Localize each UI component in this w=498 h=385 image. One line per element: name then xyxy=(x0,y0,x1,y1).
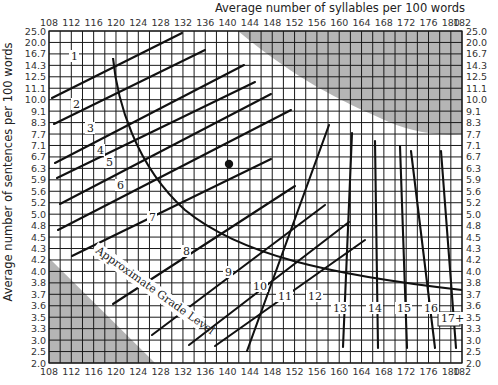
y-tick-left: 7.7 xyxy=(31,129,46,140)
grade-label-9: 9 xyxy=(225,266,232,279)
y-tick-left: 6.3 xyxy=(31,163,46,174)
y-tick-left: 4.5 xyxy=(31,232,46,243)
y-tick-left: 7.1 xyxy=(31,140,46,151)
x-ticks-top: 1081121161201241281321361401441481521561… xyxy=(40,17,471,28)
x-tick-top: 168 xyxy=(375,17,393,28)
x-tick-top: 156 xyxy=(308,17,326,28)
plot-area: Approximate Grade Level 1234567891011121… xyxy=(49,31,464,363)
y-tick-left: 4.2 xyxy=(31,254,46,265)
x-tick-bottom: 148 xyxy=(263,366,281,377)
x-tick-top: 172 xyxy=(397,17,415,28)
y-tick-right: 7.7 xyxy=(466,129,481,140)
y-tick-right: 4.5 xyxy=(466,232,481,243)
y-tick-left: 9.1 xyxy=(31,106,46,117)
y-tick-left: 20.0 xyxy=(25,37,46,48)
x-tick-bottom: 156 xyxy=(308,366,326,377)
y-ticks-left: 25.020.016.714.312.511.110.09.18.37.77.1… xyxy=(25,26,46,369)
y-tick-left: 10.0 xyxy=(25,94,46,105)
y-tick-left: 16.7 xyxy=(25,48,46,59)
y-tick-left: 3.3 xyxy=(31,323,46,334)
x-tick-top: 152 xyxy=(285,17,303,28)
y-tick-right: 7.1 xyxy=(466,140,481,151)
x-tick-top: 128 xyxy=(152,17,170,28)
x-tick-top: 116 xyxy=(85,17,103,28)
grade-label-13: 13 xyxy=(333,302,347,315)
y-tick-left: 3.6 xyxy=(31,300,46,311)
grade-label-17+: 17+ xyxy=(441,312,464,325)
grade-label-1: 1 xyxy=(71,50,78,63)
y-axis-title: Average number of sentences per 100 word… xyxy=(1,42,15,301)
grade-label-11: 11 xyxy=(278,290,292,303)
x-tick-bottom: 172 xyxy=(397,366,415,377)
y-tick-left: 4.0 xyxy=(31,266,46,277)
y-tick-right: 4.2 xyxy=(466,254,481,265)
y-tick-left: 2.0 xyxy=(31,358,46,369)
y-tick-right: 8.3 xyxy=(466,117,481,128)
y-tick-right: 20.0 xyxy=(466,37,487,48)
x-tick-bottom: 152 xyxy=(285,366,303,377)
x-tick-bottom: 136 xyxy=(196,366,214,377)
grade-label-3: 3 xyxy=(87,122,94,135)
y-tick-right: 5.0 xyxy=(466,209,481,220)
x-tick-top: 148 xyxy=(263,17,281,28)
x-tick-top: 136 xyxy=(196,17,214,28)
y-tick-left: 5.9 xyxy=(31,174,46,185)
x-tick-bottom: 144 xyxy=(241,366,259,377)
x-tick-bottom: 168 xyxy=(375,366,393,377)
y-tick-right: 2.5 xyxy=(466,346,481,357)
y-tick-left: 14.3 xyxy=(25,60,46,71)
x-axis-title: Average number of syllables per 100 word… xyxy=(215,1,465,15)
x-tick-top: 112 xyxy=(62,17,80,28)
y-tick-left: 5.0 xyxy=(31,209,46,220)
y-tick-right: 14.3 xyxy=(466,60,487,71)
fry-readability-graph: Average number of syllables per 100 word… xyxy=(0,0,498,385)
y-tick-right: 3.5 xyxy=(466,312,481,323)
y-tick-right: 10.0 xyxy=(466,94,487,105)
y-tick-right: 12.5 xyxy=(466,71,487,82)
y-tick-right: 3.0 xyxy=(466,335,481,346)
grade-label-12: 12 xyxy=(308,290,322,303)
y-tick-left: 5.2 xyxy=(31,197,46,208)
data-point xyxy=(225,160,233,168)
y-tick-right: 11.1 xyxy=(466,83,487,94)
x-tick-top: 160 xyxy=(330,17,348,28)
x-tick-top: 140 xyxy=(219,17,237,28)
y-tick-right: 3.6 xyxy=(466,300,481,311)
y-tick-left: 2.5 xyxy=(31,346,46,357)
y-tick-right: 6.7 xyxy=(466,151,481,162)
x-tick-bottom: 128 xyxy=(152,366,170,377)
y-tick-right: 6.3 xyxy=(466,163,481,174)
y-tick-right: 9.1 xyxy=(466,106,481,117)
grade-label-4: 4 xyxy=(97,144,104,157)
y-tick-left: 5.6 xyxy=(31,186,46,197)
x-tick-bottom: 160 xyxy=(330,366,348,377)
x-tick-top: 132 xyxy=(174,17,192,28)
y-tick-right: 16.7 xyxy=(466,48,487,59)
y-tick-right: 2.0 xyxy=(466,358,481,369)
x-tick-bottom: 176 xyxy=(419,366,437,377)
grade-label-2: 2 xyxy=(73,98,80,111)
x-tick-bottom: 116 xyxy=(85,366,103,377)
y-tick-right: 3.8 xyxy=(466,277,481,288)
y-tick-left: 3.5 xyxy=(31,312,46,323)
x-tick-bottom: 120 xyxy=(107,366,125,377)
y-tick-left: 3.8 xyxy=(31,277,46,288)
x-tick-bottom: 132 xyxy=(174,366,192,377)
x-tick-bottom: 140 xyxy=(219,366,237,377)
y-tick-left: 11.1 xyxy=(25,83,46,94)
grade-label-15: 15 xyxy=(397,302,411,315)
y-tick-right: 4.8 xyxy=(466,220,481,231)
y-tick-right: 4.3 xyxy=(466,243,481,254)
y-tick-left: 25.0 xyxy=(25,26,46,37)
x-tick-top: 120 xyxy=(107,17,125,28)
x-tick-bottom: 164 xyxy=(352,366,370,377)
y-tick-left: 3.0 xyxy=(31,335,46,346)
x-tick-bottom: 124 xyxy=(129,366,147,377)
y-tick-right: 5.6 xyxy=(466,186,481,197)
grade-label-8: 8 xyxy=(183,245,190,258)
y-tick-left: 3.7 xyxy=(31,289,46,300)
x-ticks-bottom: 1081121161201241281321361401441481521561… xyxy=(40,366,471,377)
grade-label-6: 6 xyxy=(117,179,124,192)
y-tick-left: 4.3 xyxy=(31,243,46,254)
x-tick-top: 144 xyxy=(241,17,259,28)
